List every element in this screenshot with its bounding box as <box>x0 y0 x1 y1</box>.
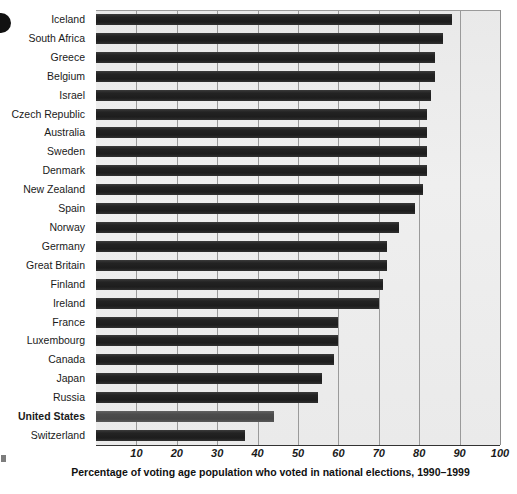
x-tick-label: 40 <box>251 447 263 459</box>
bar-row <box>96 48 500 67</box>
x-tick-label: 70 <box>373 447 385 459</box>
bar-row <box>96 67 500 86</box>
bar-row <box>96 180 500 199</box>
x-tick-label: 100 <box>491 447 509 459</box>
bar <box>96 298 379 309</box>
bar-row <box>96 218 500 237</box>
margin-mark-icon <box>1 455 6 462</box>
bar <box>96 71 435 82</box>
category-label: Greece <box>51 50 85 69</box>
bar <box>96 354 334 365</box>
category-label: Finland <box>51 277 85 296</box>
bar-row <box>96 29 500 48</box>
category-label: Germany <box>42 239 85 258</box>
bar-row <box>96 86 500 105</box>
bar-row <box>96 369 500 388</box>
bar <box>96 203 415 214</box>
gridline-100 <box>500 10 501 445</box>
bar <box>96 411 274 422</box>
x-tick-label: 60 <box>332 447 344 459</box>
x-tick-label: 30 <box>211 447 223 459</box>
category-label: Japan <box>56 371 85 390</box>
category-label: Norway <box>49 220 85 239</box>
bar <box>96 109 427 120</box>
category-label: Switzerland <box>31 428 85 447</box>
bar <box>96 222 399 233</box>
bar-row <box>96 256 500 275</box>
bar-row <box>96 237 500 256</box>
bar-row <box>96 123 500 142</box>
bar-row <box>96 105 500 124</box>
bar <box>96 146 427 157</box>
bar-row <box>96 275 500 294</box>
category-label: Denmark <box>42 163 85 182</box>
bar-row <box>96 294 500 313</box>
x-tick-label: 50 <box>292 447 304 459</box>
x-axis-tick-labels: 102030405060708090100 <box>96 447 500 463</box>
figure-container: IcelandSouth AfricaGreeceBelgiumIsraelCz… <box>0 0 517 494</box>
bar-row <box>96 407 500 426</box>
category-label: Spain <box>58 201 85 220</box>
category-label: Great Britain <box>26 258 85 277</box>
bar <box>96 184 423 195</box>
bar-row <box>96 332 500 351</box>
bar <box>96 127 427 138</box>
bars-group <box>96 10 500 445</box>
bar <box>96 317 338 328</box>
category-label: Canada <box>48 352 85 371</box>
x-axis-line <box>96 445 500 446</box>
bar <box>96 33 443 44</box>
bar <box>96 52 435 63</box>
category-label: Australia <box>44 125 85 144</box>
category-label: Sweden <box>47 144 85 163</box>
x-tick-label: 90 <box>453 447 465 459</box>
x-tick-label: 80 <box>413 447 425 459</box>
bar-row <box>96 142 500 161</box>
bar <box>96 14 452 25</box>
category-axis-labels: IcelandSouth AfricaGreeceBelgiumIsraelCz… <box>0 10 90 445</box>
category-label: Israel <box>59 88 85 107</box>
bar-row <box>96 161 500 180</box>
bar-row <box>96 388 500 407</box>
x-tick-label: 10 <box>130 447 142 459</box>
bar-row <box>96 10 500 29</box>
category-label: Luxembourg <box>27 333 85 352</box>
category-label: United States <box>18 409 85 428</box>
bar <box>96 335 338 346</box>
category-label: Belgium <box>47 69 85 88</box>
bar <box>96 430 245 441</box>
x-tick-label: 20 <box>171 447 183 459</box>
category-label: New Zealand <box>23 182 85 201</box>
category-label: France <box>52 315 85 334</box>
bar-row <box>96 350 500 369</box>
category-label: Ireland <box>53 296 85 315</box>
plot-area <box>96 10 500 445</box>
bar <box>96 279 383 290</box>
category-label: South Africa <box>28 31 85 50</box>
bar <box>96 241 387 252</box>
bar <box>96 392 318 403</box>
category-label: Iceland <box>51 12 85 31</box>
bar <box>96 260 387 271</box>
bar-row <box>96 199 500 218</box>
category-label: Russia <box>53 390 85 409</box>
bar <box>96 90 431 101</box>
bar-row <box>96 426 500 445</box>
category-label: Czech Republic <box>11 107 85 126</box>
bar <box>96 373 322 384</box>
plot-wrapper <box>96 10 500 445</box>
bar <box>96 165 427 176</box>
chart-caption: Percentage of voting age population who … <box>0 466 517 478</box>
bar-row <box>96 313 500 332</box>
